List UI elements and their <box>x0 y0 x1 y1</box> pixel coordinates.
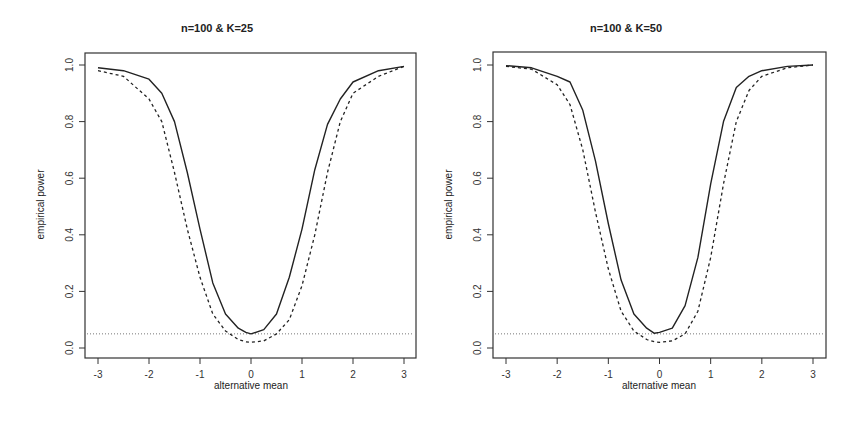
x-tick-label: 3 <box>401 369 407 380</box>
y-tick-label: 0.2 <box>472 284 483 298</box>
y-tick-label: 0.8 <box>472 114 483 128</box>
y-tick-label: 0.8 <box>64 114 75 128</box>
x-tick-label: 2 <box>759 369 765 380</box>
y-tick-label: 0.0 <box>472 341 483 355</box>
chart-panel-k50: n=100 & K=50 -3-2-101230.00.20.40.60.81.… <box>434 0 868 427</box>
x-axis-label: alternative mean <box>559 380 759 391</box>
x-tick-label: 1 <box>708 369 714 380</box>
x-tick-label: 1 <box>299 369 305 380</box>
x-tick-label: -3 <box>502 369 511 380</box>
plot-frame <box>493 52 826 358</box>
x-tick-label: 3 <box>810 369 816 380</box>
x-tick-label: -2 <box>553 369 562 380</box>
y-tick-label: 1.0 <box>64 58 75 72</box>
dashed-series-line <box>506 65 813 342</box>
dashed-series-line <box>98 66 404 342</box>
y-tick-label: 0.0 <box>64 341 75 355</box>
x-tick-label: 0 <box>248 369 254 380</box>
y-tick-label: 1.0 <box>472 58 483 72</box>
x-axis-label: alternative mean <box>151 380 351 391</box>
y-axis-label: empirical power <box>35 155 46 255</box>
y-tick-label: 0.4 <box>64 227 75 241</box>
plot-area: -3-2-101230.00.20.40.60.81.0 <box>434 0 868 427</box>
y-axis-label: empirical power <box>443 155 454 255</box>
x-tick-label: -3 <box>94 369 103 380</box>
x-tick-label: -2 <box>145 369 154 380</box>
plot-frame <box>85 53 416 358</box>
y-tick-label: 0.6 <box>472 171 483 185</box>
x-tick-label: -1 <box>604 369 613 380</box>
x-tick-label: -1 <box>196 369 205 380</box>
solid-series-line <box>506 65 813 333</box>
x-tick-label: 2 <box>350 369 356 380</box>
y-tick-label: 0.2 <box>64 284 75 298</box>
solid-series-line <box>98 66 404 334</box>
y-tick-label: 0.4 <box>472 227 483 241</box>
y-tick-label: 0.6 <box>64 171 75 185</box>
plot-area: -3-2-101230.00.20.40.60.81.0 <box>0 0 434 427</box>
x-tick-label: 0 <box>657 369 663 380</box>
chart-panel-k25: n=100 & K=25 -3-2-101230.00.20.40.60.81.… <box>0 0 434 427</box>
